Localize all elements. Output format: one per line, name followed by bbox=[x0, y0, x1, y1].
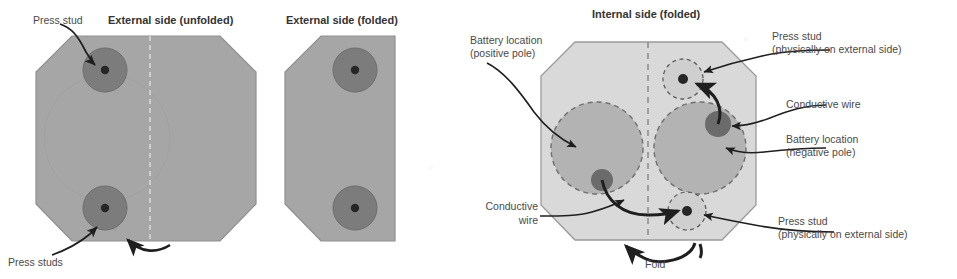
battery-location-negative-circle bbox=[654, 102, 746, 194]
label-press-stud-single: Press stud bbox=[33, 14, 83, 27]
press-stud-folded-top bbox=[333, 48, 377, 92]
panel-title-internal-folded: Internal side (folded) bbox=[592, 8, 700, 21]
press-stud-internal-top-right bbox=[663, 59, 703, 99]
label-press-stud-ext-bottom-line2: (physically on external side) bbox=[778, 228, 908, 241]
external-unfolded-octagon bbox=[36, 36, 256, 241]
press-stud-bottom-left bbox=[83, 186, 127, 230]
label-press-stud-ext-bottom-line1: Press stud bbox=[778, 215, 828, 228]
panel-external-unfolded bbox=[36, 24, 256, 255]
label-conductive-wire-left-line1: Conductive bbox=[452, 200, 538, 213]
label-conductive-wire-left-line2: wire bbox=[452, 214, 538, 227]
label-battery-negative-line2: (negative pole) bbox=[786, 146, 855, 159]
panel-external-folded bbox=[285, 36, 395, 241]
label-conductive-wire-right: Conductive wire bbox=[786, 98, 861, 111]
label-press-stud-ext-top-line2: (physically on external side) bbox=[772, 43, 902, 56]
label-battery-positive-line1: Battery location bbox=[470, 34, 542, 47]
fold-arc-left-head bbox=[700, 244, 702, 258]
label-battery-negative-line1: Battery location bbox=[786, 133, 858, 146]
panel-title-external-folded: External side (folded) bbox=[286, 14, 398, 27]
press-stud-top-left bbox=[83, 48, 127, 92]
label-fold: Fold bbox=[645, 258, 665, 271]
label-battery-positive-line2: (positive pole) bbox=[470, 47, 535, 60]
circuit-diagram-figure: External side (unfolded) External side (… bbox=[0, 0, 957, 279]
label-press-stud-ext-top-line1: Press stud bbox=[772, 30, 822, 43]
label-press-studs-plural: Press studs bbox=[8, 256, 63, 269]
panel-title-external-unfolded: External side (unfolded) bbox=[108, 14, 233, 27]
press-stud-folded-bottom bbox=[333, 186, 377, 230]
